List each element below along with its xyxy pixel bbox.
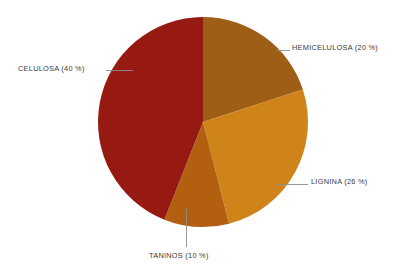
slice-label-taninos: TANINOS (10 %) [149, 252, 209, 259]
pie-chart: HEMICELULOSA (20 %) CELULOSA (40 %) LIGN… [0, 0, 401, 278]
pie-slices [98, 17, 308, 227]
slice-label-celulosa: CELULOSA (40 %) [18, 65, 85, 72]
slice-label-lignina: LIGNINA (26 %) [311, 178, 367, 185]
slice-label-hemicelulosa: HEMICELULOSA (20 %) [292, 44, 378, 51]
pie-chart-canvas [0, 0, 401, 278]
